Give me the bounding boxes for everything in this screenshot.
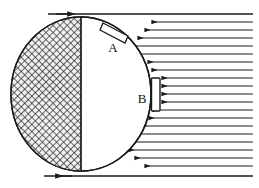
label-a: A xyxy=(108,40,118,55)
label-b: B xyxy=(138,91,147,106)
figure-root: A B xyxy=(0,0,259,188)
plate-b xyxy=(152,78,161,111)
flow-diagram: A B xyxy=(0,0,259,188)
